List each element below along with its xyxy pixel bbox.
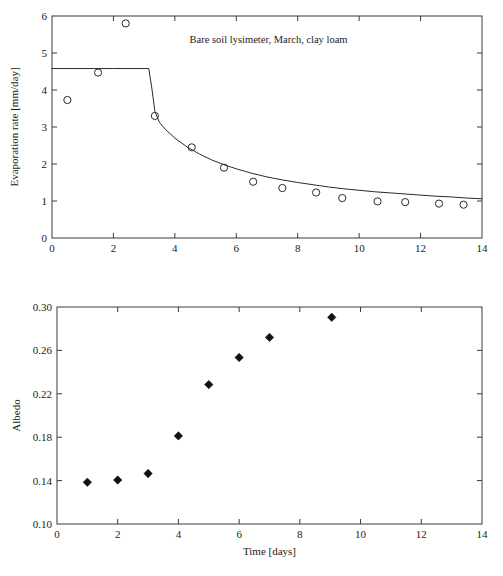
evaporation-panel-data-point	[122, 20, 129, 27]
evaporation-panel-yticklabel: 2	[42, 158, 48, 170]
evaporation-panel-xticklabel: 0	[49, 242, 55, 254]
chart-canvas: 024681012140123456Evaporation rate [mm/d…	[0, 0, 503, 576]
figure-panel-stack: 024681012140123456Evaporation rate [mm/d…	[0, 0, 503, 576]
albedo-panel-xticklabel: 14	[477, 528, 489, 540]
evaporation-panel-yticklabel: 6	[42, 10, 48, 22]
evaporation-panel-data-point	[279, 184, 286, 191]
albedo-panel-yticklabel: 0.26	[33, 344, 53, 356]
albedo-panel-xticklabel: 2	[115, 528, 121, 540]
albedo-panel-ylabel: Albedo	[10, 399, 22, 432]
albedo-panel-yticklabel: 0.10	[33, 518, 53, 530]
evaporation-panel-yticklabel: 1	[42, 195, 48, 207]
evaporation-panel-xticklabel: 6	[234, 242, 240, 254]
evaporation-panel-data-point	[313, 189, 320, 196]
evaporation-panel-yticklabel: 0	[42, 232, 48, 244]
evaporation-panel-data-point	[94, 69, 101, 76]
albedo-panel-yticklabel: 0.22	[33, 388, 52, 400]
evaporation-panel-data-point	[402, 199, 409, 206]
albedo-panel-data-point	[235, 353, 243, 361]
albedo-panel-xticklabel: 10	[355, 528, 367, 540]
evaporation-panel-ylabel: Evaporation rate [mm/day]	[8, 67, 20, 186]
albedo-panel: 024681012140.100.140.180.220.260.30Albed…	[10, 301, 488, 557]
albedo-panel-xticklabel: 0	[54, 528, 60, 540]
evaporation-panel-plot-frame	[52, 16, 482, 238]
evaporation-panel-data-point	[460, 201, 467, 208]
evaporation-panel-xticklabel: 8	[295, 242, 301, 254]
evaporation-panel-data-point	[64, 96, 71, 103]
albedo-panel-data-point	[83, 478, 91, 486]
albedo-panel-data-point	[265, 333, 273, 341]
evaporation-panel-title: Bare soil lysimeter, March, clay loam	[190, 34, 348, 45]
evaporation-panel-data-point	[374, 198, 381, 205]
evaporation-panel: 024681012140123456Evaporation rate [mm/d…	[8, 10, 488, 254]
albedo-panel-yticklabel: 0.14	[33, 475, 53, 487]
evaporation-panel-model-curve	[52, 69, 482, 199]
evaporation-panel-data-point	[250, 178, 257, 185]
evaporation-panel-data-point	[435, 200, 442, 207]
albedo-panel-data-point	[174, 432, 182, 440]
evaporation-panel-xticklabel: 10	[354, 242, 366, 254]
albedo-panel-yticklabel: 0.18	[33, 431, 53, 443]
albedo-panel-data-point	[144, 469, 152, 477]
evaporation-panel-yticklabel: 3	[42, 121, 48, 133]
albedo-panel-yticklabel: 0.30	[33, 301, 53, 313]
albedo-panel-xticklabel: 8	[297, 528, 303, 540]
albedo-panel-data-point	[328, 313, 336, 321]
albedo-panel-xticklabel: 12	[416, 528, 427, 540]
albedo-panel-xticklabel: 4	[176, 528, 182, 540]
evaporation-panel-xticklabel: 14	[477, 242, 489, 254]
albedo-panel-data-point	[205, 380, 213, 388]
evaporation-panel-xticklabel: 12	[415, 242, 426, 254]
evaporation-panel-xticklabel: 2	[111, 242, 117, 254]
evaporation-panel-xticklabel: 4	[172, 242, 178, 254]
albedo-panel-xlabel: Time [days]	[243, 545, 296, 557]
evaporation-panel-data-point	[339, 194, 346, 201]
evaporation-panel-yticklabel: 4	[42, 84, 48, 96]
albedo-panel-data-point	[114, 476, 122, 484]
albedo-panel-xticklabel: 6	[236, 528, 242, 540]
evaporation-panel-yticklabel: 5	[42, 47, 48, 59]
